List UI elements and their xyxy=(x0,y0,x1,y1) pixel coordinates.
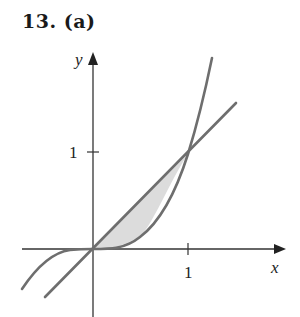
curve-y-equals-x xyxy=(45,103,236,297)
x-axis-label: x xyxy=(270,258,279,277)
y-axis-arrow-icon xyxy=(88,52,98,65)
y-axis-label: y xyxy=(73,50,83,69)
curve-y-equals-x-cubed xyxy=(22,58,212,289)
x-axis-arrow-icon xyxy=(274,244,286,254)
x-tick-label: 1 xyxy=(184,263,193,282)
y-tick-label: 1 xyxy=(69,143,78,162)
graph: y x 1 1 xyxy=(0,0,300,317)
